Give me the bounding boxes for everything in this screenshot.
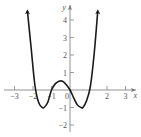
x-tick-label: 0 [65, 92, 69, 101]
y-tick-label: −2 [58, 121, 67, 130]
y-axis-label: y [61, 3, 66, 12]
y-tick-label: 3 [63, 34, 67, 43]
y-tick-label: −1 [58, 104, 67, 113]
x-tick-label: −3 [10, 92, 19, 101]
y-tick-label: 2 [63, 51, 67, 60]
y-tick-label: 1 [63, 69, 67, 78]
chart: xy −3−2−1023−2−11234 [0, 0, 141, 137]
ticks: −3−2−1023−2−11234 [10, 16, 127, 130]
x-axis-label: x [132, 91, 137, 100]
x-tick-label: 2 [105, 92, 109, 101]
x-tick-label: 3 [124, 92, 128, 101]
y-tick-label: 4 [63, 16, 67, 25]
axes: xy [4, 3, 137, 132]
